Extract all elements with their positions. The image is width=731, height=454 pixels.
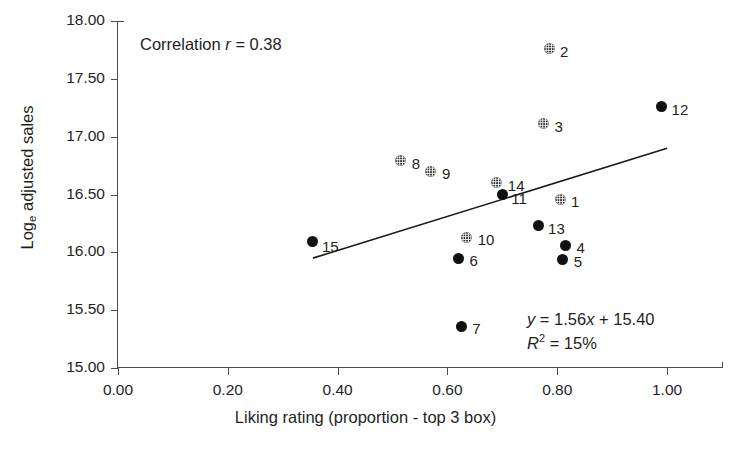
data-point-label: 14 <box>508 178 525 193</box>
trend-line <box>0 0 731 454</box>
data-point-label: 13 <box>548 221 565 236</box>
data-point <box>497 189 508 200</box>
data-point <box>533 220 544 231</box>
data-point-label: 3 <box>555 119 563 134</box>
data-point-label: 15 <box>322 239 339 254</box>
data-point-label: 6 <box>469 253 477 268</box>
data-point <box>461 232 472 243</box>
data-point-label: 10 <box>478 232 495 247</box>
data-point-label: 8 <box>412 156 420 171</box>
data-point <box>456 321 467 332</box>
data-point-label: 2 <box>560 44 568 59</box>
data-point-label: 5 <box>574 254 582 269</box>
data-point <box>560 240 571 251</box>
data-point <box>544 43 555 54</box>
scatter-plot-figure: 15.0015.5016.0016.5017.0017.5018.00 0.00… <box>0 0 731 454</box>
data-point-label: 12 <box>672 102 689 117</box>
data-point-label: 9 <box>442 166 450 181</box>
data-point-label: 7 <box>472 321 480 336</box>
data-point <box>453 253 464 264</box>
data-point-label: 1 <box>571 194 579 209</box>
data-point <box>555 194 566 205</box>
data-point <box>557 254 568 265</box>
